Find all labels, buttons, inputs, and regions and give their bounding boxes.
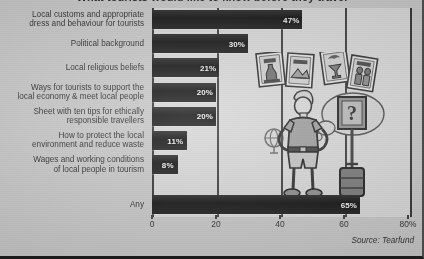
x-tick-mark-0: [151, 215, 153, 219]
category-label: Sheet with ten tips for ethicallyrespons…: [0, 107, 144, 126]
bar: 30%: [152, 34, 248, 53]
bar-value-label: 21%: [200, 63, 216, 72]
bar-value-label: 20%: [197, 112, 213, 121]
bar-row: 8%: [152, 155, 178, 174]
category-label: Any: [0, 200, 144, 209]
x-tick-mark-80: [407, 215, 409, 219]
bar-row: 11%: [152, 131, 187, 150]
x-tick-mark-20: [215, 215, 217, 219]
bar: 65%: [152, 195, 360, 214]
category-label-line: responsible travellers: [0, 116, 144, 125]
bar-row: 65%: [152, 195, 360, 214]
category-label-line: Local religious beliefs: [0, 63, 144, 72]
bar-row: 20%: [152, 83, 216, 102]
bar-row: 20%: [152, 107, 216, 126]
bar-value-label: 30%: [229, 39, 245, 48]
x-tick-label-60: 60: [339, 219, 348, 229]
category-label-line: Political background: [0, 39, 144, 48]
x-tick-mark-60: [343, 215, 345, 219]
category-label-line: environment and reduce waste: [0, 140, 144, 149]
source-note: Source: Tearfund: [351, 236, 414, 245]
chart-title-text: What tourists would like to know before …: [77, 0, 348, 3]
chart-title-cropped: What tourists would like to know before …: [0, 0, 424, 7]
bar-value-label: 11%: [167, 136, 183, 145]
bar: 47%: [152, 10, 302, 29]
category-label-line: Ways for tourists to support the: [0, 83, 144, 92]
bar: 21%: [152, 58, 219, 77]
category-label: Local religious beliefs: [0, 63, 144, 72]
chart-figure: What tourists would like to know before …: [0, 0, 424, 259]
category-label-line: Any: [0, 200, 144, 209]
category-label-line: Local customs and appropriate: [0, 10, 144, 19]
x-tick-label-80: 80%: [400, 219, 417, 229]
gridline-60: [345, 8, 347, 217]
x-tick-mark-40: [279, 215, 281, 219]
category-label-line: How to protect the local: [0, 131, 144, 140]
bar: 8%: [152, 155, 178, 174]
bar-value-label: 8%: [162, 160, 174, 169]
category-label: Wages and working conditionsof local peo…: [0, 155, 144, 174]
bar: 11%: [152, 131, 187, 150]
category-label-line: dress and behaviour for tourists: [0, 19, 144, 28]
bar-row: 30%: [152, 34, 248, 53]
bar-value-label: 47%: [283, 15, 299, 24]
bar: 20%: [152, 83, 216, 102]
category-label: Ways for tourists to support thelocal ec…: [0, 83, 144, 102]
bar-value-label: 65%: [341, 200, 357, 209]
category-label-line: Sheet with ten tips for ethically: [0, 107, 144, 116]
x-axis: 020406080%: [0, 219, 424, 233]
bar-row: 21%: [152, 58, 219, 77]
x-tick-label-0: 0: [150, 219, 155, 229]
bar-value-label: 20%: [197, 88, 213, 97]
category-label-column: Local customs and appropriatedress and b…: [0, 8, 148, 217]
category-label-line: Wages and working conditions: [0, 155, 144, 164]
category-label-line: local economy & meet local people: [0, 92, 144, 101]
x-tick-label-40: 40: [275, 219, 284, 229]
category-label-line: of local people in tourism: [0, 165, 144, 174]
bar: 20%: [152, 107, 216, 126]
bar-row: 47%: [152, 10, 302, 29]
category-label: Local customs and appropriatedress and b…: [0, 10, 144, 29]
gridline-40: [281, 8, 283, 217]
category-label: How to protect the localenvironment and …: [0, 131, 144, 150]
category-label: Political background: [0, 39, 144, 48]
x-tick-label-20: 20: [211, 219, 220, 229]
